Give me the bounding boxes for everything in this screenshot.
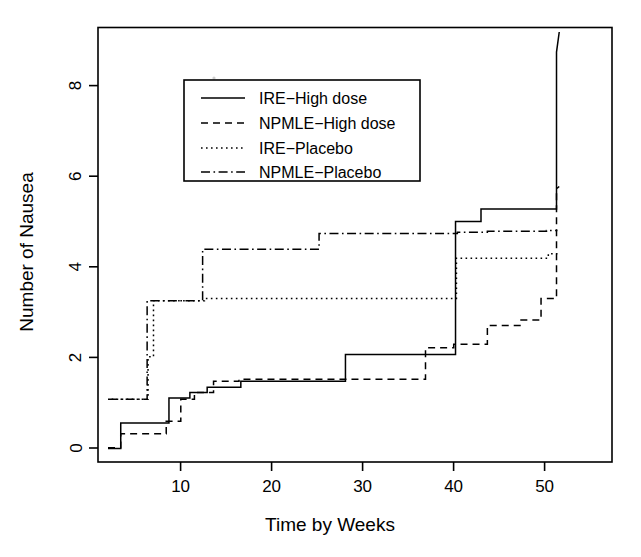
y-tick-label: 6: [67, 171, 86, 180]
x-tick-label: 40: [444, 477, 463, 496]
legend-label-ire-placebo: IRE−Placebo: [259, 140, 353, 157]
y-tick-label: 8: [67, 81, 86, 90]
x-axis-label: Time by Weeks: [265, 514, 395, 535]
x-tick-label: 20: [262, 477, 281, 496]
chart-figure: 0 2 4 6 8 10 20 30 40 50 Time by Weeks N…: [0, 0, 641, 557]
y-tick-label: 2: [67, 353, 86, 362]
y-axis-label: Number of Nausea: [16, 172, 37, 332]
legend: IRE−High dose NPMLE−High dose IRE−Placeb…: [184, 80, 420, 181]
y-tick-label: 0: [67, 443, 86, 452]
legend-label-npmle-placebo: NPMLE−Placebo: [259, 164, 381, 181]
scan-speck: [212, 76, 215, 79]
x-tick-label: 50: [535, 477, 554, 496]
x-tick-label: 10: [171, 477, 190, 496]
legend-label-npmle-high-dose: NPMLE−High dose: [259, 115, 396, 132]
step-function-plot: 0 2 4 6 8 10 20 30 40 50 Time by Weeks N…: [0, 0, 641, 557]
legend-label-ire-high-dose: IRE−High dose: [259, 90, 367, 107]
y-tick-label: 4: [67, 262, 86, 271]
x-tick-label: 30: [353, 477, 372, 496]
